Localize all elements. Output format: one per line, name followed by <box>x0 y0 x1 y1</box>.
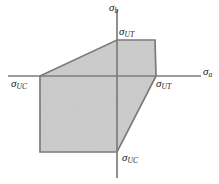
sigma-a-axis-label: σa <box>203 66 212 78</box>
sigma-uc-left-label: σUC <box>11 78 27 90</box>
sigma-ut-right-label: σUT <box>156 78 171 90</box>
sigma-b-axis-label: σb <box>109 2 118 14</box>
sigma-a-subscript: a <box>209 70 213 79</box>
failure-envelope-figure: σb σa σUT σUT σUC σUC <box>0 0 219 184</box>
sigma-ut-right-subscript: UT <box>162 82 172 91</box>
sigma-uc-bottom-label: σUC <box>122 152 138 164</box>
sigma-b-subscript: b <box>115 6 119 15</box>
sigma-ut-top-subscript: UT <box>125 30 135 39</box>
figure-canvas <box>0 0 219 184</box>
sigma-ut-top-label: σUT <box>119 26 134 38</box>
paper-grain-texture <box>0 0 219 184</box>
sigma-uc-bottom-subscript: UC <box>128 156 139 165</box>
sigma-uc-left-subscript: UC <box>17 82 28 91</box>
